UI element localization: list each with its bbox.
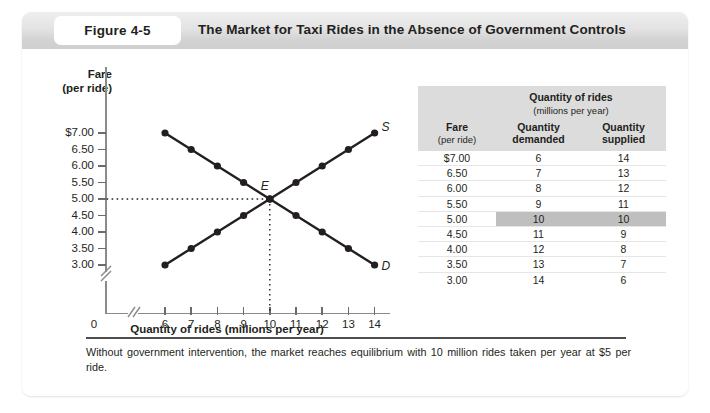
demand-curve-label: D xyxy=(382,259,391,273)
table-span-header-line1: Quantity of rides xyxy=(529,91,612,103)
table-row: 6.00812 xyxy=(418,181,666,196)
column-header-quantity-supplied: Quantity supplied xyxy=(581,121,666,146)
cell-quantity-supplied: 9 xyxy=(581,228,666,240)
caption-divider xyxy=(86,337,626,339)
supply-demand-curves xyxy=(22,49,422,339)
supply-data-point xyxy=(292,179,299,186)
cell-quantity-demanded: 6 xyxy=(496,152,581,164)
cell-quantity-supplied: 6 xyxy=(581,274,666,286)
demand-data-point xyxy=(161,129,168,136)
table-row: 3.00146 xyxy=(418,273,666,287)
cell-quantity-supplied: 12 xyxy=(581,182,666,194)
cell-quantity-supplied: 8 xyxy=(581,243,666,255)
cell-quantity-supplied: 14 xyxy=(581,152,666,164)
cell-fare: 4.50 xyxy=(418,228,496,240)
cell-fare: 6.00 xyxy=(418,182,496,194)
figure-number-badge: Figure 4-5 xyxy=(54,16,181,45)
figure-caption: Without government intervention, the mar… xyxy=(86,345,631,375)
demand-data-point xyxy=(345,245,352,252)
cell-quantity-demanded: 10 xyxy=(496,212,581,226)
chart-area: Fare (per ride) $7.006.506.005.505.004.5… xyxy=(22,49,422,339)
table-span-header: Quantity of rides (millions per year) xyxy=(418,91,666,117)
supply-data-point xyxy=(161,261,168,268)
column-header-quantity-demanded: Quantity demanded xyxy=(496,121,581,146)
figure-title: The Market for Taxi Rides in the Absence… xyxy=(198,22,626,37)
cell-quantity-demanded: 13 xyxy=(496,258,581,270)
figure-header-bar: Figure 4-5 The Market for Taxi Rides in … xyxy=(22,12,688,49)
table-row: $7.00614 xyxy=(418,151,666,166)
figure-body: Fare (per ride) $7.006.506.005.505.004.5… xyxy=(22,49,688,396)
cell-fare: 6.50 xyxy=(418,167,496,179)
cell-quantity-supplied: 10 xyxy=(581,212,666,226)
cell-fare: 3.50 xyxy=(418,258,496,270)
supply-data-point xyxy=(371,129,378,136)
demand-data-point xyxy=(188,146,195,153)
supply-data-point xyxy=(319,162,326,169)
supply-data-point xyxy=(214,228,221,235)
cell-fare: $7.00 xyxy=(418,152,496,164)
column-header-fare: Fare (per ride) xyxy=(418,121,496,146)
demand-data-point xyxy=(319,228,326,235)
supply-data-point xyxy=(240,212,247,219)
cell-fare: 5.50 xyxy=(418,198,496,210)
demand-data-point xyxy=(240,179,247,186)
supply-data-point xyxy=(188,245,195,252)
x-axis-title: Quantity of rides (millions per year) xyxy=(62,323,392,335)
cell-quantity-supplied: 13 xyxy=(581,167,666,179)
demand-data-point xyxy=(371,261,378,268)
table-row: 3.50137 xyxy=(418,257,666,272)
demand-data-point xyxy=(292,212,299,219)
table-row: 5.50911 xyxy=(418,197,666,212)
cell-quantity-demanded: 14 xyxy=(496,274,581,286)
cell-quantity-demanded: 12 xyxy=(496,243,581,255)
cell-quantity-demanded: 11 xyxy=(496,228,581,240)
cell-quantity-supplied: 11 xyxy=(581,198,666,210)
table-row: 5.001010 xyxy=(418,212,666,227)
data-table: Quantity of rides (millions per year) Fa… xyxy=(418,86,666,311)
table-header: Quantity of rides (millions per year) Fa… xyxy=(418,86,666,151)
cell-quantity-demanded: 7 xyxy=(496,167,581,179)
cell-fare: 5.00 xyxy=(418,213,496,225)
demand-data-point xyxy=(214,162,221,169)
cell-fare: 4.00 xyxy=(418,243,496,255)
cell-quantity-supplied: 7 xyxy=(581,258,666,270)
equilibrium-point xyxy=(266,195,273,202)
supply-data-point xyxy=(345,146,352,153)
supply-curve-label: S xyxy=(382,120,390,134)
table-body: $7.006146.507136.008125.509115.0010104.5… xyxy=(418,151,666,287)
figure-card: Figure 4-5 The Market for Taxi Rides in … xyxy=(22,12,688,396)
equilibrium-label: E xyxy=(261,179,269,193)
table-column-headers: Fare (per ride) Quantity demanded Quanti… xyxy=(418,117,666,151)
table-row: 4.50119 xyxy=(418,227,666,242)
table-row: 4.00128 xyxy=(418,242,666,257)
cell-quantity-demanded: 8 xyxy=(496,182,581,194)
table-row: 6.50713 xyxy=(418,166,666,181)
table-span-header-line2: (millions per year) xyxy=(533,105,609,116)
figure-page: Figure 4-5 The Market for Taxi Rides in … xyxy=(0,0,710,413)
cell-fare: 3.00 xyxy=(418,274,496,286)
cell-quantity-demanded: 9 xyxy=(496,198,581,210)
